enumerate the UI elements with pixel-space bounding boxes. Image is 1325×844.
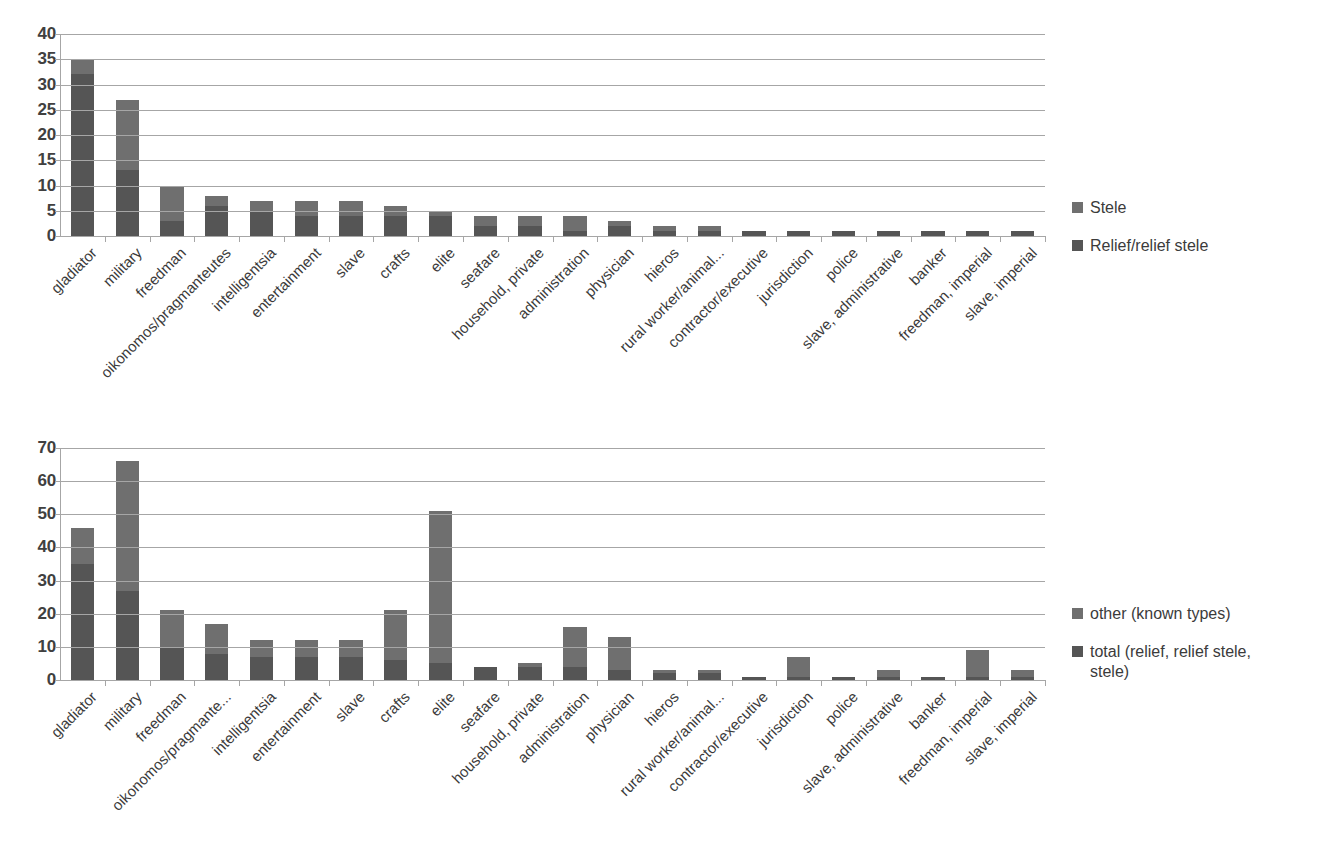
bar-segment[interactable]	[205, 624, 228, 654]
bar-slot[interactable]	[508, 448, 553, 680]
bar-segment[interactable]	[250, 211, 273, 236]
bar-segment[interactable]	[295, 216, 318, 236]
bar-segment[interactable]	[608, 221, 631, 226]
bar-segment[interactable]	[339, 216, 362, 236]
bar-slot[interactable]	[284, 448, 329, 680]
bar-segment[interactable]	[295, 657, 318, 680]
y-tick-mark	[55, 680, 61, 681]
bar-segment[interactable]	[787, 657, 810, 677]
bar-segment[interactable]	[877, 670, 900, 677]
legend-item[interactable]: other (known types)	[1072, 604, 1322, 624]
y-tick-mark	[55, 547, 61, 548]
bar-slot[interactable]	[776, 448, 821, 680]
legend-top: SteleRelief/relief stele	[1072, 198, 1312, 274]
bar-segment[interactable]	[518, 667, 541, 680]
bar-segment[interactable]	[160, 610, 183, 646]
legend-item[interactable]: Stele	[1072, 198, 1312, 218]
x-tick-mark	[642, 680, 643, 686]
legend-swatch	[1072, 646, 1083, 657]
x-tick-label: elite	[426, 244, 457, 275]
x-tick-mark	[150, 236, 151, 242]
bar-segment[interactable]	[205, 654, 228, 681]
bar-segment[interactable]	[429, 216, 452, 236]
y-tick-mark	[55, 160, 61, 161]
y-tick-label: 70	[37, 438, 56, 458]
bar-segment[interactable]	[518, 226, 541, 236]
x-tick-mark	[105, 680, 106, 686]
bar-segment[interactable]	[608, 637, 631, 670]
gridline	[60, 547, 1045, 548]
bar-segment[interactable]	[474, 667, 497, 680]
bar-segment[interactable]	[339, 640, 362, 657]
bar-slot[interactable]	[821, 448, 866, 680]
legend-item[interactable]: total (relief, relief stele, stele)	[1072, 642, 1322, 682]
bar-segment[interactable]	[295, 640, 318, 657]
bar-segment[interactable]	[384, 610, 407, 660]
bar-segment[interactable]	[698, 226, 721, 231]
bar-slot[interactable]	[418, 448, 463, 680]
bar-segment[interactable]	[250, 640, 273, 657]
bar-segment[interactable]	[71, 59, 94, 74]
bar-slot[interactable]	[150, 448, 195, 680]
bar-segment[interactable]	[205, 196, 228, 206]
bar-segment[interactable]	[966, 650, 989, 677]
bar-segment[interactable]	[116, 591, 139, 680]
bar-segment[interactable]	[1011, 670, 1034, 677]
bar-segment[interactable]	[160, 221, 183, 236]
bar-segment[interactable]	[474, 226, 497, 236]
bar-slot[interactable]	[239, 448, 284, 680]
bar-slot[interactable]	[373, 448, 418, 680]
x-tick-label: police	[821, 244, 861, 284]
bar-segment[interactable]	[474, 216, 497, 226]
y-tick-label: 60	[37, 471, 56, 491]
bar-segment[interactable]	[160, 186, 183, 221]
bar-segment[interactable]	[563, 216, 586, 231]
bar-segment[interactable]	[250, 201, 273, 211]
x-tick-mark	[284, 680, 285, 686]
bar-slot[interactable]	[60, 448, 105, 680]
bar-slot[interactable]	[866, 448, 911, 680]
bar-slot[interactable]	[553, 448, 598, 680]
y-tick-mark	[55, 236, 61, 237]
bar-segment[interactable]	[653, 673, 676, 680]
bar-slot[interactable]	[194, 448, 239, 680]
gridline	[60, 186, 1045, 187]
legend-item[interactable]: Relief/relief stele	[1072, 236, 1312, 256]
bar-segment[interactable]	[518, 663, 541, 666]
bar-segment[interactable]	[339, 657, 362, 680]
bar-segment[interactable]	[653, 226, 676, 231]
bar-segment[interactable]	[608, 670, 631, 680]
bar-segment[interactable]	[608, 226, 631, 236]
bar-slot[interactable]	[105, 448, 150, 680]
bar-slot[interactable]	[1000, 448, 1045, 680]
bar-slot[interactable]	[329, 448, 374, 680]
bar-segment[interactable]	[295, 201, 318, 216]
x-tick-mark	[642, 236, 643, 242]
gridline	[60, 581, 1045, 582]
bar-segment[interactable]	[160, 647, 183, 680]
bar-segment[interactable]	[250, 657, 273, 680]
bar-slot[interactable]	[642, 448, 687, 680]
bar-segment[interactable]	[71, 74, 94, 236]
bar-slot[interactable]	[687, 448, 732, 680]
bar-slot[interactable]	[732, 448, 777, 680]
bar-segment[interactable]	[518, 216, 541, 226]
x-tick-mark	[150, 680, 151, 686]
bar-segment[interactable]	[429, 663, 452, 680]
bar-slot[interactable]	[463, 448, 508, 680]
bar-segment[interactable]	[71, 528, 94, 564]
y-tick-mark	[55, 211, 61, 212]
bar-slot[interactable]	[911, 448, 956, 680]
bar-segment[interactable]	[116, 170, 139, 236]
x-tick-mark	[1045, 680, 1046, 686]
bar-segment[interactable]	[563, 667, 586, 680]
bar-segment[interactable]	[653, 670, 676, 673]
bar-segment[interactable]	[429, 511, 452, 663]
bar-slot[interactable]	[955, 448, 1000, 680]
bar-segment[interactable]	[384, 216, 407, 236]
bar-segment[interactable]	[339, 201, 362, 216]
bar-slot[interactable]	[597, 448, 642, 680]
bar-segment[interactable]	[698, 670, 721, 673]
bar-segment[interactable]	[384, 660, 407, 680]
bar-segment[interactable]	[698, 673, 721, 680]
